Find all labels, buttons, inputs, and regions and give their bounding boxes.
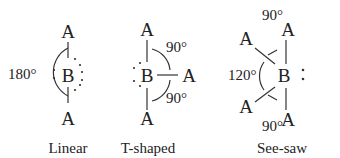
linear-geometry: A B A 180° Linear xyxy=(8,21,88,156)
see-saw-angle-label-top: 90° xyxy=(262,7,283,23)
t-shaped-ligand-right: A xyxy=(182,65,196,86)
see-saw-bond-top-left xyxy=(255,48,275,64)
t-shaped-central-atom: B xyxy=(141,65,154,86)
see-saw-angle-label-bottom: 90° xyxy=(262,118,283,134)
see-saw-ligand-top-right: A xyxy=(281,19,295,40)
t-shaped-angle-label-top: 90° xyxy=(166,39,187,55)
see-saw-caption: See-saw xyxy=(257,140,307,156)
see-saw-angle-label-middle: 120° xyxy=(228,67,257,83)
linear-angle-label: 180° xyxy=(8,66,37,82)
see-saw-ligand-top-left: A xyxy=(239,28,253,49)
see-saw-angle-arc xyxy=(259,62,264,90)
see-saw-central-atom: B xyxy=(278,65,291,86)
linear-ligand-bottom: A xyxy=(61,108,75,129)
vsepr-geometry-diagram: A B A 180° Linear A B A A xyxy=(0,0,340,158)
see-saw-geometry: 90° A A B A A 120° 90° See-saw xyxy=(228,7,307,156)
t-shaped-ligand-top: A xyxy=(140,19,154,40)
see-saw-angle-tick-bottom xyxy=(268,95,277,100)
t-shaped-angle-label-bottom: 90° xyxy=(166,90,187,106)
linear-caption: Linear xyxy=(48,140,87,156)
t-shaped-ligand-bottom: A xyxy=(140,108,154,129)
see-saw-angle-tick-top xyxy=(268,50,277,55)
see-saw-ligand-bottom-left: A xyxy=(239,96,253,117)
see-saw-ligand-bottom-right: A xyxy=(281,109,295,130)
t-shaped-caption: T-shaped xyxy=(121,140,176,156)
linear-central-atom: B xyxy=(62,65,75,86)
see-saw-lone-pair xyxy=(302,69,305,81)
t-shaped-geometry: A B A A 90° 90° T-shaped xyxy=(121,19,196,156)
see-saw-bond-bottom-left xyxy=(255,87,275,102)
linear-ligand-top: A xyxy=(61,21,75,42)
